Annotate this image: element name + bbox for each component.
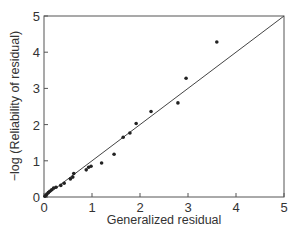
data-point (62, 181, 66, 185)
data-point (128, 131, 132, 135)
y-axis-label: −log (Reliability of residual) (8, 31, 22, 181)
data-point (215, 40, 219, 44)
x-axis-label: Generalized residual (107, 213, 222, 227)
data-point (121, 135, 125, 139)
y-tick-label: 2 (33, 118, 40, 133)
data-point (112, 152, 116, 156)
data-point (184, 76, 188, 80)
data-point (59, 184, 63, 188)
x-tick-label: 4 (232, 200, 239, 215)
data-point (134, 122, 138, 126)
data-point (89, 164, 93, 168)
diagonal-line (44, 16, 284, 197)
x-tick-label: 1 (88, 200, 95, 215)
y-tick-label: 0 (33, 190, 40, 205)
y-tick-label: 3 (33, 81, 40, 96)
data-points (43, 40, 218, 198)
scatter-chart: 012345012345 Generalized residual −log (… (0, 0, 302, 237)
data-point (71, 175, 75, 179)
reference-line (44, 16, 284, 197)
data-point (176, 101, 180, 105)
data-point (100, 161, 104, 165)
x-tick-label: 5 (280, 200, 287, 215)
y-tick-label: 4 (33, 45, 40, 60)
data-point (54, 185, 58, 189)
data-point (149, 110, 153, 114)
x-tick-label: 0 (40, 200, 47, 215)
axis-ticks: 012345012345 (33, 9, 288, 215)
y-tick-label: 5 (33, 9, 40, 24)
y-tick-label: 1 (33, 154, 40, 169)
data-point (72, 172, 76, 176)
